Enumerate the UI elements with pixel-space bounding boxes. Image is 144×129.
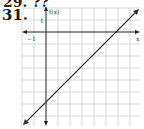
- y-axis-label: f(x): [49, 8, 59, 15]
- line-graph: f(x) x −1 1: [0, 0, 144, 129]
- x-axis-left-arrow-icon: [22, 30, 27, 34]
- y-tick-label-1: 1: [40, 17, 44, 24]
- x-axis-label: x: [136, 35, 140, 42]
- y-axis: [44, 6, 48, 126]
- x-tick-label-neg1: −1: [27, 35, 36, 42]
- function-line: [23, 9, 139, 125]
- y-axis-down-arrow-icon: [44, 121, 48, 126]
- y-axis-up-arrow-icon: [44, 6, 48, 11]
- x-axis: [22, 30, 140, 34]
- x-axis-right-arrow-icon: [135, 30, 140, 34]
